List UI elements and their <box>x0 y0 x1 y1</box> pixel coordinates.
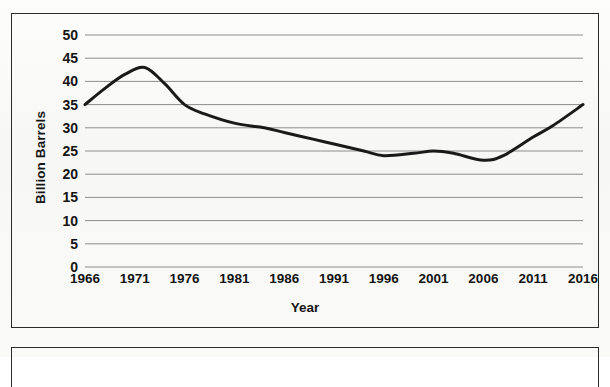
x-axis-title: Year <box>0 300 610 315</box>
y-tick-label: 15 <box>44 190 78 204</box>
gridlines <box>85 35 583 267</box>
x-tick-label: 1986 <box>256 272 312 286</box>
x-tick-label: 2001 <box>406 272 462 286</box>
y-tick-label: 35 <box>44 98 78 112</box>
x-tick-label: 1971 <box>107 272 163 286</box>
x-tick-label: 1991 <box>306 272 362 286</box>
x-tick-label: 2016 <box>555 272 610 286</box>
x-tick-label: 1996 <box>356 272 412 286</box>
x-tick-label: 1976 <box>157 272 213 286</box>
x-tick-label: 1966 <box>57 272 113 286</box>
y-tick-label: 20 <box>44 167 78 181</box>
y-tick-label: 40 <box>44 74 78 88</box>
y-tick-label: 10 <box>44 214 78 228</box>
y-tick-label: 25 <box>44 144 78 158</box>
x-tick-label: 2011 <box>505 272 561 286</box>
y-tick-label: 45 <box>44 51 78 65</box>
x-tick-label: 1981 <box>206 272 262 286</box>
y-tick-label: 5 <box>44 237 78 251</box>
y-axis-title: Billion Barrels <box>33 78 48 238</box>
y-tick-label: 50 <box>44 28 78 42</box>
x-tick-label: 2006 <box>455 272 511 286</box>
y-tick-label: 30 <box>44 121 78 135</box>
